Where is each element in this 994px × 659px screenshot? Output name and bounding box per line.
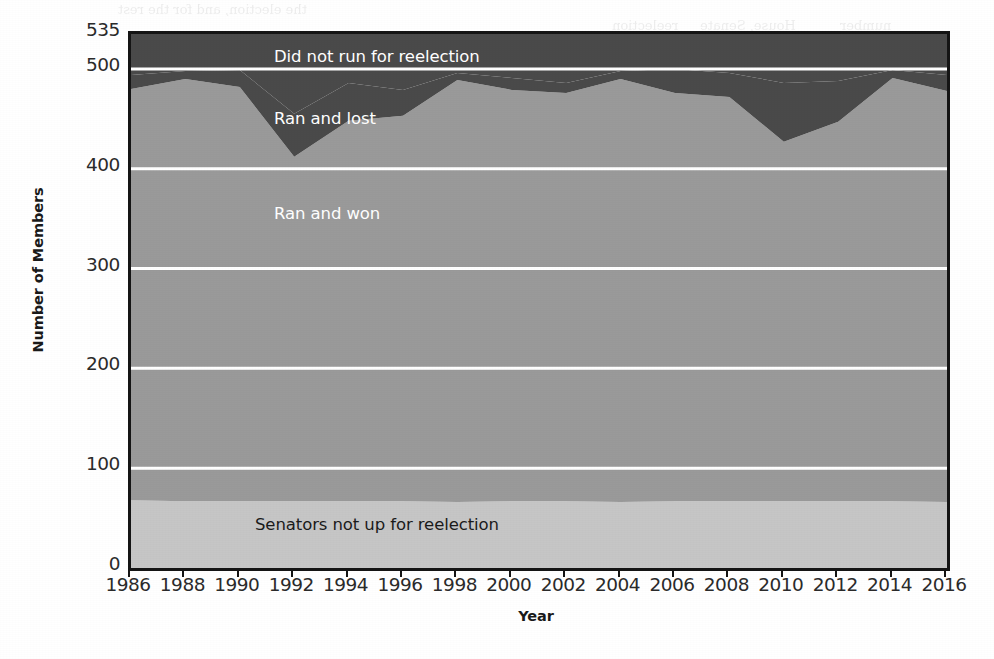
stacked-area-plot: [131, 34, 947, 568]
stacked-area-chart-figure: Number of Members 0100200300400500535 Di…: [0, 0, 994, 659]
x-tick-label-2016: 2016: [909, 576, 979, 595]
x-axis-title: Year: [128, 608, 944, 624]
y-tick-label-535: 535: [56, 21, 120, 40]
area-band-ran-and-won: [131, 78, 947, 502]
y-tick-label-100: 100: [56, 455, 120, 474]
plot-area: Did not run for reelectionRan and lostRa…: [128, 31, 950, 571]
y-tick-label-0: 0: [56, 555, 120, 574]
y-axis-title: Number of Members: [30, 170, 46, 370]
y-tick-label-200: 200: [56, 355, 120, 374]
y-tick-label-500: 500: [56, 56, 120, 75]
y-axis-tick-labels: 0100200300400500535: [52, 0, 120, 659]
area-band-senators-not-up-for-reelection: [131, 500, 947, 568]
y-tick-label-300: 300: [56, 256, 120, 275]
y-tick-label-400: 400: [56, 156, 120, 175]
area-bands: [131, 34, 947, 568]
x-axis-tick-labels: 1986198819901992199419961998200020022004…: [0, 576, 994, 602]
